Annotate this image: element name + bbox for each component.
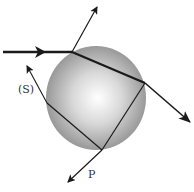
label-s: (S) <box>18 83 34 96</box>
label-p: P <box>88 168 96 181</box>
ray-diagram: (S) P <box>0 0 194 192</box>
reflected-ray <box>72 7 97 52</box>
transmitted-ray-p <box>68 150 102 182</box>
transmitted-ray-1 <box>145 83 190 122</box>
